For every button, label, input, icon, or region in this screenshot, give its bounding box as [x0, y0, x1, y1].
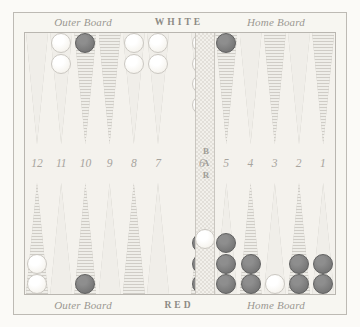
point-12-top[interactable]	[25, 33, 49, 144]
point-triangle	[123, 183, 145, 294]
checker-stack-point-3-bottom[interactable]	[263, 183, 287, 294]
checker-red[interactable]	[313, 254, 333, 274]
top-outer-board-label: Outer Board	[24, 16, 142, 28]
point-4-top[interactable]	[239, 33, 263, 144]
checker-red[interactable]	[75, 33, 95, 53]
point-11-bottom[interactable]	[49, 183, 73, 294]
point-numbers-left: 121110987	[25, 157, 170, 169]
point-triangle	[147, 183, 169, 294]
checker-red[interactable]	[216, 33, 236, 53]
point-triangle	[99, 183, 121, 294]
point-number-12-left: 12	[25, 157, 49, 169]
checker-stack-point-10-bottom[interactable]	[73, 183, 97, 294]
checker-stack-point-5-bottom[interactable]	[214, 183, 238, 294]
checker-red[interactable]	[313, 274, 333, 294]
point-number-10-left: 10	[73, 157, 97, 169]
point-8-bottom[interactable]	[122, 183, 146, 294]
point-triangle	[26, 33, 48, 144]
checker-white[interactable]	[265, 274, 285, 294]
checker-stack-point-8-top[interactable]	[122, 33, 146, 144]
top-label-row: Outer Board WHITE Home Board	[24, 13, 336, 31]
bottom-half	[25, 183, 335, 294]
point-number-8-left: 8	[122, 157, 146, 169]
point-triangle	[99, 33, 121, 144]
point-number-9-left: 9	[98, 157, 122, 169]
checker-red[interactable]	[216, 254, 236, 274]
point-3-top[interactable]	[263, 33, 287, 144]
checker-red[interactable]	[216, 274, 236, 294]
point-number-4-right: 4	[238, 157, 262, 169]
checker-stack-point-11-top[interactable]	[49, 33, 73, 144]
bar-checker-white[interactable]	[195, 229, 215, 249]
point-2-top[interactable]	[287, 33, 311, 144]
point-number-6-right: 6	[190, 157, 214, 169]
bottom-home-board-label: Home Board	[216, 299, 336, 311]
top-half	[25, 33, 335, 144]
red-player-label: RED	[142, 300, 216, 310]
checker-red[interactable]	[241, 274, 261, 294]
checker-white[interactable]	[51, 54, 71, 74]
checker-stack-point-10-top[interactable]	[73, 33, 97, 144]
checker-white[interactable]	[27, 274, 47, 294]
checker-red[interactable]	[75, 274, 95, 294]
point-number-5-right: 5	[214, 157, 238, 169]
bottom-outer-board-label: Outer Board	[24, 299, 142, 311]
checker-red[interactable]	[216, 233, 236, 253]
point-7-bottom[interactable]	[146, 183, 170, 294]
checker-stack-point-5-top[interactable]	[214, 33, 238, 144]
point-triangle	[288, 33, 310, 144]
checker-stack-point-4-bottom[interactable]	[239, 183, 263, 294]
checker-white[interactable]	[148, 33, 168, 53]
checker-stack-point-12-bottom[interactable]	[25, 183, 49, 294]
checker-stack-point-2-bottom[interactable]	[287, 183, 311, 294]
point-9-top[interactable]	[98, 33, 122, 144]
checker-red[interactable]	[289, 274, 309, 294]
point-1-top[interactable]	[311, 33, 335, 144]
backgammon-screenshot: Outer Board WHITE Home Board Outer Board…	[0, 0, 360, 327]
checker-stack-point-7-top[interactable]	[146, 33, 170, 144]
point-numbers-right: 654321	[190, 157, 335, 169]
checker-red[interactable]	[289, 254, 309, 274]
bottom-label-row: Outer Board RED Home Board	[24, 296, 336, 314]
point-number-3-right: 3	[262, 157, 286, 169]
top-home-board-label: Home Board	[216, 16, 336, 28]
point-number-2-right: 2	[287, 157, 311, 169]
white-player-label: WHITE	[142, 17, 216, 27]
point-triangle	[50, 183, 72, 294]
checker-white[interactable]	[27, 254, 47, 274]
point-number-1-right: 1	[311, 157, 335, 169]
checker-white[interactable]	[124, 54, 144, 74]
checker-stack-point-1-bottom[interactable]	[311, 183, 335, 294]
point-number-11-left: 11	[49, 157, 73, 169]
checker-white[interactable]	[148, 54, 168, 74]
point-triangle	[312, 33, 334, 144]
checker-white[interactable]	[124, 33, 144, 53]
checker-red[interactable]	[241, 254, 261, 274]
point-triangle	[240, 33, 262, 144]
point-9-bottom[interactable]	[98, 183, 122, 294]
checker-white[interactable]	[51, 33, 71, 53]
point-number-7-left: 7	[146, 157, 170, 169]
point-number-strip: 121110987 654321	[25, 152, 335, 174]
point-triangle	[264, 33, 286, 144]
